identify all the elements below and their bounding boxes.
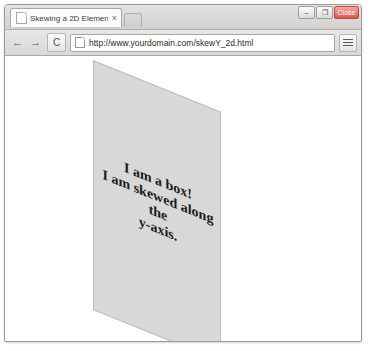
- skewed-box-text: I am a box! I am skewed along the y-axis…: [94, 147, 222, 263]
- reload-icon[interactable]: C: [47, 33, 66, 52]
- forward-arrow-icon[interactable]: →: [27, 34, 44, 51]
- back-arrow-icon[interactable]: ←: [9, 34, 26, 51]
- minimize-button[interactable]: –: [298, 6, 315, 19]
- menu-line: [343, 39, 353, 40]
- page-viewport: I am a box! I am skewed along the y-axis…: [5, 56, 361, 341]
- address-bar[interactable]: http://www.yourdomain.com/skewY_2d.html: [70, 34, 335, 52]
- menu-line: [343, 42, 353, 43]
- browser-toolbar: ← → C http://www.yourdomain.com/skewY_2d…: [5, 30, 361, 56]
- url-text: http://www.yourdomain.com/skewY_2d.html: [89, 38, 253, 48]
- maximize-button[interactable]: ❐: [316, 6, 333, 19]
- document-icon: [75, 37, 85, 48]
- new-tab-button[interactable]: [124, 13, 142, 27]
- skewed-box: I am a box! I am skewed along the y-axis…: [93, 60, 221, 341]
- window-controls: – ❐ Close: [297, 6, 359, 19]
- menu-icon[interactable]: [339, 34, 357, 52]
- close-button[interactable]: Close: [334, 6, 359, 19]
- tab-favicon-icon: [16, 12, 27, 24]
- browser-window: Skewing a 2D Element Alo × – ❐ Close ← →…: [4, 4, 362, 342]
- tab-close-icon[interactable]: ×: [112, 14, 117, 23]
- titlebar: Skewing a 2D Element Alo × – ❐ Close: [5, 5, 361, 30]
- tab-title: Skewing a 2D Element Alo: [30, 14, 108, 23]
- menu-line: [343, 45, 353, 46]
- browser-tab[interactable]: Skewing a 2D Element Alo ×: [10, 8, 122, 27]
- tabstrip: Skewing a 2D Element Alo ×: [10, 8, 142, 27]
